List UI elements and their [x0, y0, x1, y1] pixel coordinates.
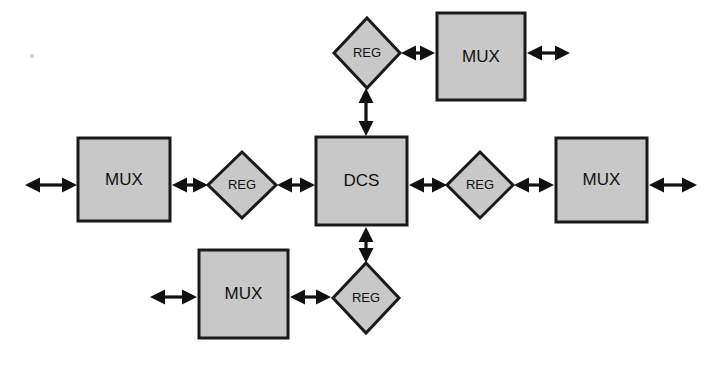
artifacts-layer [30, 54, 34, 58]
arrow-regleft-dcs [277, 178, 315, 193]
arrow-right-external [649, 178, 697, 193]
arrow-muxbottom-regbottom [290, 290, 331, 305]
node-label: MUX [583, 170, 621, 189]
diagram-svg: DCSMUXMUXMUXMUXREGREGREGREG [0, 0, 721, 370]
node-mux-right[interactable]: MUX [556, 138, 647, 222]
arrow-regright-muxright [514, 178, 554, 193]
node-reg-top[interactable]: REG [334, 18, 400, 88]
node-mux-top[interactable]: MUX [437, 13, 525, 100]
arrow-dcs-regbottom [359, 227, 374, 263]
node-label: DCS [344, 171, 380, 190]
node-reg-left[interactable]: REG [208, 152, 276, 218]
node-dcs-center[interactable]: DCS [316, 137, 407, 225]
node-label: MUX [105, 170, 143, 189]
arrow-muxtop-external [527, 46, 570, 61]
arrow-muxbottom-external [150, 290, 197, 305]
scan-speck [30, 54, 34, 58]
arrow-left-external [25, 178, 77, 193]
node-label: REG [228, 177, 256, 192]
node-mux-left[interactable]: MUX [78, 138, 170, 221]
node-label: REG [353, 45, 381, 60]
arrow-muxleft-regleft [172, 178, 208, 193]
node-label: MUX [462, 47, 500, 66]
node-reg-right[interactable]: REG [447, 152, 513, 218]
node-reg-bottom[interactable]: REG [333, 263, 399, 333]
node-label: REG [466, 177, 494, 192]
arrow-regtop-muxtop [401, 46, 435, 61]
arrow-dcs-regtop [359, 88, 374, 136]
arrow-dcs-regright [409, 178, 447, 193]
node-mux-bottom[interactable]: MUX [199, 250, 288, 338]
nodes-layer: DCSMUXMUXMUXMUXREGREGREGREG [78, 13, 647, 338]
block-diagram-canvas: DCSMUXMUXMUXMUXREGREGREGREG [0, 0, 721, 370]
node-label: MUX [225, 284, 263, 303]
node-label: REG [352, 290, 380, 305]
